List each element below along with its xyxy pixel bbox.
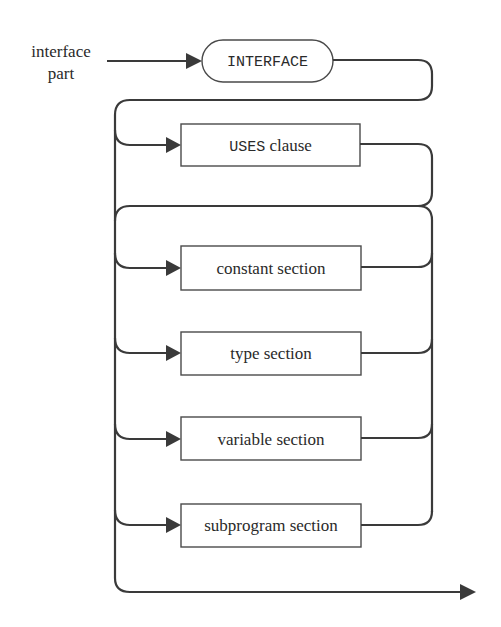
interface-part-syntax-diagram: interface part INTERFACE USES clause con…: [0, 0, 501, 627]
uses-suffix: clause: [265, 136, 312, 155]
type-branch-in: [115, 338, 167, 353]
constant-branch-in: [115, 253, 167, 268]
variable-branch-in: [115, 424, 167, 439]
constant-section-box: constant section: [181, 246, 361, 290]
section-loop-top: [115, 206, 418, 221]
type-branch-out: [361, 339, 432, 353]
subprogram-section-label: subprogram section: [204, 516, 338, 535]
uses-keyword: USES: [229, 139, 265, 156]
subprogram-section-box: subprogram section: [181, 504, 361, 547]
uses-branch-out: [360, 144, 432, 206]
interface-keyword-terminal: INTERFACE: [202, 40, 333, 82]
type-section-label: type section: [230, 344, 312, 363]
entry-label-line1: interface: [31, 42, 90, 61]
exit-arrow-icon: [460, 584, 476, 600]
type-section-box: type section: [181, 332, 361, 375]
section-loop-right-rail: [418, 206, 432, 512]
constant-section-label: constant section: [216, 259, 326, 278]
uses-branch-in: [115, 130, 167, 145]
constant-branch-out: [361, 253, 432, 267]
interface-keyword: INTERFACE: [227, 54, 308, 71]
entry-arrow-icon: [186, 53, 202, 69]
subprogram-branch-in: [115, 510, 167, 525]
subprogram-arrow-icon: [166, 517, 181, 533]
uses-arrow-icon: [166, 137, 181, 153]
subprogram-branch-out: [361, 511, 432, 525]
uses-clause-label: USES clause: [229, 136, 312, 156]
variable-section-box: variable section: [181, 417, 361, 460]
entry-label-line2: part: [48, 64, 75, 83]
variable-section-label: variable section: [217, 430, 325, 449]
uses-clause-box: USES clause: [181, 124, 360, 166]
variable-arrow-icon: [166, 431, 181, 447]
type-arrow-icon: [166, 345, 181, 361]
constant-arrow-icon: [166, 260, 181, 276]
variable-branch-out: [361, 424, 432, 438]
entry-label: interface part: [31, 42, 90, 83]
